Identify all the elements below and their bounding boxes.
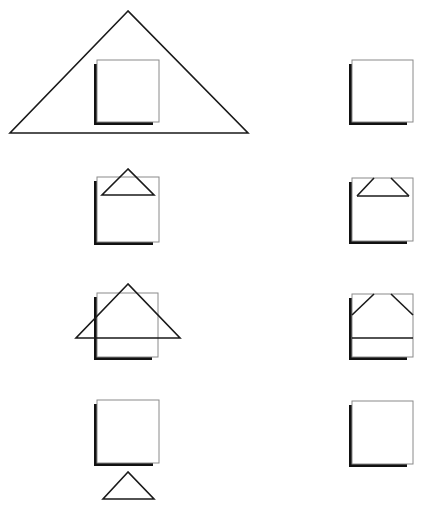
window-frame (97, 293, 158, 357)
diagram-row-1 (10, 11, 413, 133)
window-frame (352, 178, 413, 241)
window-right-1 (349, 60, 413, 125)
window-right-2 (349, 178, 413, 244)
triangle-shape (103, 472, 154, 499)
window-left-2 (94, 177, 159, 245)
window-left-3 (94, 293, 158, 360)
clipped-triangle-segment (391, 294, 413, 315)
diagram-row-4 (94, 400, 413, 499)
diagram-row-3 (76, 284, 413, 360)
window-frame (352, 401, 413, 464)
clipping-diagram (0, 0, 428, 505)
triangle-shape (76, 284, 180, 338)
window-frame (352, 294, 413, 357)
clipped-triangle-segment (357, 178, 374, 196)
clipped-triangle-segment (352, 294, 374, 315)
window-left-1 (94, 60, 159, 125)
window-frame (352, 60, 413, 122)
window-right-3 (349, 294, 413, 360)
diagram-row-2 (94, 169, 413, 245)
window-frame (97, 60, 159, 122)
triangle-shape (10, 11, 248, 133)
triangle-shape (102, 169, 154, 195)
window-frame (97, 400, 159, 463)
window-right-4 (349, 401, 413, 467)
window-frame (97, 177, 159, 242)
window-left-4 (94, 400, 159, 466)
clipped-triangle-segment (391, 178, 409, 196)
